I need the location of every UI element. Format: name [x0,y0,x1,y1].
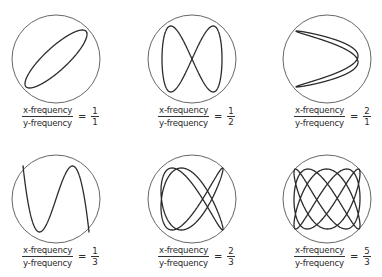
lissajous-curve [161,168,223,230]
y-frequency-label: y-frequency [158,117,209,128]
label-fraction: x-frequency y-frequency [22,245,73,268]
equals-sign: = [214,251,222,262]
lissajous-panel-ratio-1-1 [12,15,100,103]
lissajous-panel-ratio-5-3 [283,155,371,243]
ratio-value: 2 3 [227,246,234,267]
ratio-denominator: 1 [363,117,370,127]
x-frequency-label: x-frequency [294,105,345,117]
ratio-caption: x-frequency y-frequency = 1 3 [22,245,99,268]
label-fraction: x-frequency y-frequency [158,245,209,268]
lissajous-figure [0,0,382,277]
lissajous-curve [296,31,358,87]
x-frequency-label: x-frequency [158,105,209,117]
ratio-value: 1 3 [91,246,98,267]
ratio-numerator: 1 [91,106,98,117]
equals-sign: = [350,111,358,122]
ratio-numerator: 5 [363,246,370,257]
lissajous-curve [23,166,89,232]
ratio-denominator: 3 [91,257,98,267]
ratio-denominator: 3 [363,257,370,267]
equals-sign: = [214,111,222,122]
lissajous-panel-ratio-1-3 [12,155,100,243]
ratio-value: 1 1 [91,106,98,127]
equals-sign: = [78,111,86,122]
ratio-value: 5 3 [363,246,370,267]
ratio-numerator: 1 [227,106,234,117]
screen-circle [12,15,100,103]
x-frequency-label: x-frequency [158,245,209,257]
x-frequency-label: x-frequency [22,105,73,117]
ratio-value: 1 2 [227,106,234,127]
y-frequency-label: y-frequency [22,117,73,128]
ratio-numerator: 2 [363,106,370,117]
ratio-caption: x-frequency y-frequency = 2 3 [158,245,235,268]
lissajous-curve [294,169,360,229]
lissajous-curve [162,26,222,92]
ratio-value: 2 1 [363,106,370,127]
ratio-caption: x-frequency y-frequency = 2 1 [294,105,371,128]
ratio-caption: x-frequency y-frequency = 5 3 [294,245,371,268]
lissajous-panel-ratio-2-1 [283,15,371,103]
label-fraction: x-frequency y-frequency [22,105,73,128]
ratio-numerator: 2 [227,246,234,257]
label-fraction: x-frequency y-frequency [294,105,345,128]
equals-sign: = [350,251,358,262]
label-fraction: x-frequency y-frequency [294,245,345,268]
ratio-denominator: 2 [227,117,234,127]
ratio-denominator: 1 [91,117,98,127]
y-frequency-label: y-frequency [158,257,209,268]
x-frequency-label: x-frequency [294,245,345,257]
lissajous-curve [25,30,87,88]
equals-sign: = [78,251,86,262]
ratio-denominator: 3 [227,257,234,267]
lissajous-panel-ratio-2-3 [148,155,236,243]
lissajous-panel-ratio-1-2 [148,15,236,103]
label-fraction: x-frequency y-frequency [158,105,209,128]
ratio-caption: x-frequency y-frequency = 1 1 [22,105,99,128]
ratio-numerator: 1 [91,246,98,257]
y-frequency-label: y-frequency [294,257,345,268]
screen-circle [283,155,371,243]
x-frequency-label: x-frequency [22,245,73,257]
y-frequency-label: y-frequency [22,257,73,268]
ratio-caption: x-frequency y-frequency = 1 2 [158,105,235,128]
y-frequency-label: y-frequency [294,117,345,128]
